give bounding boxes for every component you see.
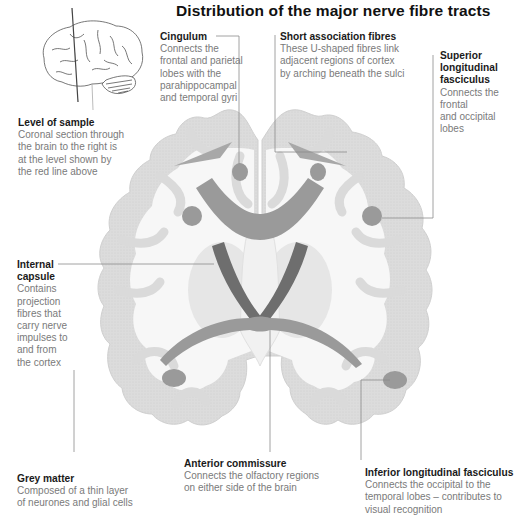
label-body: Coronal section through the brain to the… — [18, 129, 138, 178]
label-internal-capsule: Internal capsule Contains projection fib… — [17, 259, 77, 369]
lateral-brain-sketch — [43, 21, 142, 110]
label-heading: Short association fibres — [280, 31, 430, 43]
left-ilf — [162, 369, 186, 387]
left-slf — [182, 206, 202, 226]
coronal-section — [98, 110, 432, 425]
left-cingulum — [232, 163, 248, 181]
label-body: These U-shaped fibres link adjacent regi… — [280, 43, 430, 80]
label-body: Connects the olfactory regions on either… — [184, 470, 344, 494]
label-cingulum: Cingulum Connects the frontal and pariet… — [160, 31, 260, 104]
label-heading: Internal capsule — [17, 259, 77, 283]
label-short-association-fibres: Short association fibres These U-shaped … — [280, 31, 430, 80]
label-body: Composed of a thin layer of neurones and… — [17, 485, 147, 509]
label-inferior-longitudinal-fasciculus: Inferior longitudinal fasciculus Connect… — [365, 467, 520, 516]
right-slf — [362, 206, 382, 226]
diagram-title: Distribution of the major nerve fibre tr… — [176, 2, 490, 20]
label-heading: Grey matter — [17, 473, 147, 485]
label-body: Contains projection fibres that carry ne… — [17, 283, 77, 368]
label-heading: Inferior longitudinal fasciculus — [365, 467, 520, 479]
sample-level-line — [72, 8, 78, 102]
label-superior-longitudinal-fasciculus: Superior longitudinal fasciculus Connect… — [440, 50, 520, 135]
label-grey-matter: Grey matter Composed of a thin layer of … — [17, 473, 147, 510]
label-heading: Superior longitudinal fasciculus — [440, 50, 520, 87]
label-heading: Anterior commissure — [184, 458, 344, 470]
label-body: Connects the occipital to the temporal l… — [365, 479, 520, 516]
label-heading: Level of sample — [18, 117, 138, 129]
label-anterior-commissure: Anterior commissure Connects the olfacto… — [184, 458, 344, 495]
label-heading: Cingulum — [160, 31, 260, 43]
right-cingulum — [310, 163, 326, 181]
label-body: Connects the frontal and occipital lobes — [440, 87, 520, 136]
label-body: Connects the frontal and parietal lobes … — [160, 43, 260, 104]
label-level-of-sample: Level of sample Coronal section through … — [18, 117, 138, 178]
